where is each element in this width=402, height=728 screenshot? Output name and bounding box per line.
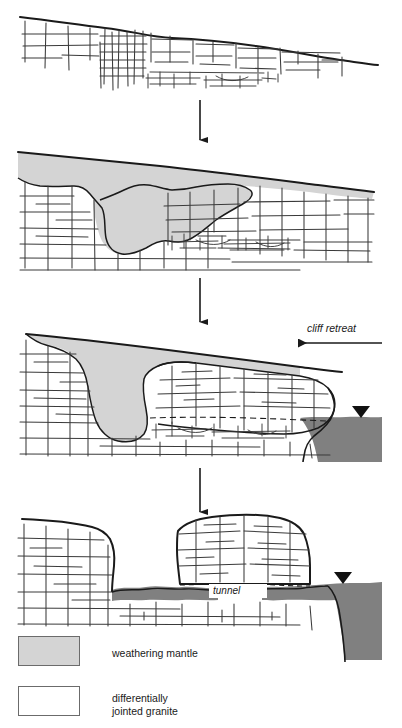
stage-1-core-weathered-zone bbox=[146, 72, 278, 88]
stage-3-panel bbox=[20, 334, 382, 512]
legend-label-weathering-mantle: weathering mantle bbox=[112, 647, 198, 660]
stage-1-joint-network bbox=[22, 21, 344, 90]
water-level-marker-stage-4 bbox=[334, 572, 352, 584]
legend-swatch-jointed-granite bbox=[18, 686, 80, 716]
stage-2-panel bbox=[18, 152, 374, 322]
water-level-marker-stage-3 bbox=[352, 406, 370, 418]
granite-weathering-cliff-retreat-diagram bbox=[0, 0, 402, 728]
cliff-retreat-label: cliff retreat bbox=[307, 322, 356, 334]
stage-4-left-cliff-face bbox=[110, 539, 114, 592]
legend-label-jointed-granite: differentially jointed granite bbox=[112, 692, 178, 717]
stage-3-incipient-tunnel-dashline bbox=[150, 417, 326, 421]
tunnel-label: tunnel bbox=[213, 585, 240, 596]
stage-1-ground-surface bbox=[20, 17, 378, 65]
legend-swatch-weathering-mantle bbox=[18, 636, 80, 666]
stage-4-left-cliff-top bbox=[22, 519, 110, 539]
stage-1-panel bbox=[20, 17, 378, 140]
